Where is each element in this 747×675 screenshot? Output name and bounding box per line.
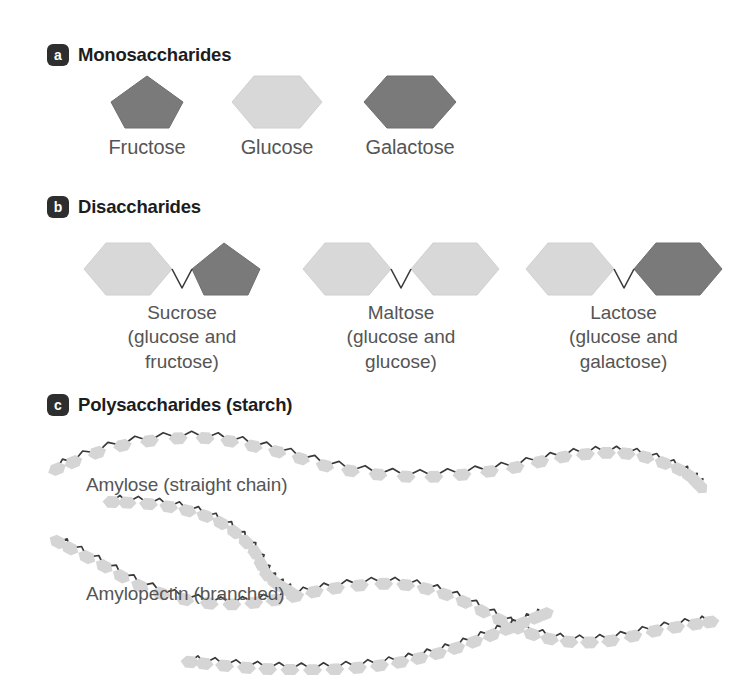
disaccharide-row: Sucrose (glucose and fructose) Maltose (… (0, 240, 747, 370)
polysaccharide-label-amylopectin: Amylopectin (branched) (86, 583, 284, 605)
monosaccharide-fructose: Fructose (92, 74, 202, 159)
section-title-polysaccharides: Polysaccharides (starch) (78, 394, 292, 416)
lactose-components-line1: (glucose and (516, 325, 731, 349)
disaccharide-label-sucrose: Sucrose (glucose and fructose) (77, 301, 287, 374)
section-header-disaccharides: b Disaccharides (47, 196, 201, 218)
section-header-polysaccharides: c Polysaccharides (starch) (47, 394, 292, 416)
sucrose-name: Sucrose (77, 301, 287, 325)
monosaccharide-label-galactose: Galactose (348, 136, 472, 159)
disaccharide-label-lactose: Lactose (glucose and galactose) (516, 301, 731, 374)
section-badge-b: b (47, 196, 69, 218)
sucrose-shape-wrap (77, 240, 287, 296)
lactose-structure-icon (524, 240, 724, 296)
galactose-shape-wrap (348, 74, 472, 130)
glucose-shape-wrap (218, 74, 336, 130)
lactose-components-line2: galactose) (516, 350, 731, 374)
disaccharide-sucrose: Sucrose (glucose and fructose) (77, 240, 287, 374)
fructose-shape-wrap (92, 74, 202, 130)
hexagon-icon (362, 74, 458, 130)
monosaccharide-label-glucose: Glucose (218, 136, 336, 159)
sucrose-components-line1: (glucose and (77, 325, 287, 349)
hexagon-icon (230, 74, 324, 130)
section-header-monosaccharides: a Monosaccharides (47, 44, 231, 66)
lactose-shape-wrap (516, 240, 731, 296)
maltose-components-line2: glucose) (296, 350, 506, 374)
polysaccharide-area (0, 424, 747, 675)
section-badge-c: c (47, 394, 69, 416)
maltose-structure-icon (301, 240, 501, 296)
section-title-disaccharides: Disaccharides (78, 196, 201, 218)
maltose-components-line1: (glucose and (296, 325, 506, 349)
maltose-shape-wrap (296, 240, 506, 296)
polysaccharide-label-amylose: Amylose (straight chain) (86, 474, 287, 496)
disaccharide-lactose: Lactose (glucose and galactose) (516, 240, 731, 374)
disaccharide-maltose: Maltose (glucose and glucose) (296, 240, 506, 374)
monosaccharide-galactose: Galactose (348, 74, 472, 159)
monosaccharide-label-fructose: Fructose (92, 136, 202, 159)
sucrose-components-line2: fructose) (77, 350, 287, 374)
lactose-name: Lactose (516, 301, 731, 325)
sucrose-structure-icon (82, 240, 282, 296)
maltose-name: Maltose (296, 301, 506, 325)
section-badge-a: a (47, 44, 69, 66)
monosaccharide-row: Fructose Glucose Galactose (0, 74, 747, 164)
starch-chains-illustration (0, 424, 747, 675)
monosaccharide-glucose: Glucose (218, 74, 336, 159)
section-title-monosaccharides: Monosaccharides (78, 44, 231, 66)
disaccharide-label-maltose: Maltose (glucose and glucose) (296, 301, 506, 374)
pentagon-icon (109, 74, 185, 130)
